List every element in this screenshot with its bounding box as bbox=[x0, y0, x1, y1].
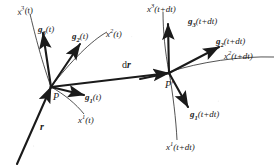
label-position-vector-r: r bbox=[40, 122, 44, 132]
p-glyph: P bbox=[53, 91, 59, 102]
basis-vector-g3-tdt-line bbox=[168, 24, 169, 73]
arg-t: (t) bbox=[113, 29, 122, 39]
figure-canvas: x3(t) g3(t) g2(t) x2(t) g1(t) x1(t) P P'… bbox=[0, 0, 280, 166]
label-basis-vector-g3-t: g3(t) bbox=[38, 25, 54, 34]
label-coord-curve-x1-tdt: x1(t+dt) bbox=[166, 143, 195, 152]
label-basis-vector-g3-tdt: g3(t+dt) bbox=[188, 17, 217, 26]
r-glyph: r bbox=[40, 121, 44, 132]
arg-t: (t) bbox=[93, 92, 102, 102]
label-basis-vector-g2-t: g2(t) bbox=[72, 32, 88, 41]
point-p-dot bbox=[49, 85, 52, 88]
label-point-p: P bbox=[53, 92, 59, 102]
arg-t: (t) bbox=[46, 24, 55, 34]
label-basis-vector-g1-tdt: g1(t+dt) bbox=[190, 110, 219, 119]
point-p-prime-dot bbox=[167, 71, 170, 74]
arg-t: (t) bbox=[24, 5, 34, 16]
label-basis-vector-g2-tdt: g2(t+dt) bbox=[216, 37, 245, 46]
position-vector-r-line bbox=[17, 87, 51, 164]
label-coord-curve-x1-t: x1(t) bbox=[78, 116, 94, 125]
arg-t: (t) bbox=[85, 115, 94, 125]
arg-tdt: (t+dt) bbox=[224, 36, 246, 46]
arg-tdt: (t+dt) bbox=[173, 142, 195, 152]
r-glyph: r bbox=[127, 59, 131, 70]
basis-vector-g2-tdt-line bbox=[169, 47, 219, 73]
label-basis-vector-g1-t: g1(t) bbox=[85, 93, 101, 102]
arg-tdt: (t+dt) bbox=[198, 109, 220, 119]
label-point-p-prime: P' bbox=[165, 80, 173, 90]
basis-vector-g2-t-line bbox=[51, 44, 80, 87]
arg-tdt: (t+dt) bbox=[154, 4, 176, 14]
displacement-vector-dr-line bbox=[51, 73, 169, 87]
prime-glyph: ' bbox=[171, 79, 173, 90]
basis-vector-g3-t-line bbox=[43, 33, 51, 87]
label-displacement-dr: dr bbox=[122, 60, 131, 70]
arg-tdt: (t+dt) bbox=[196, 16, 218, 26]
label-coord-curve-x3-tdt: x3(t+dt) bbox=[147, 5, 176, 14]
arg-t: (t) bbox=[80, 31, 89, 41]
label-coord-curve-x2-t: x2(t) bbox=[106, 30, 122, 39]
label-coord-curve-x2-tdt: x2(t+dt) bbox=[224, 52, 253, 61]
arg-tdt: (t+dt) bbox=[231, 51, 253, 61]
